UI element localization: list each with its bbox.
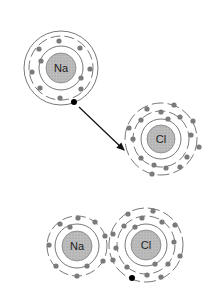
electron-transfer-arrow [79,107,124,150]
ionic-bond-diagram: Na Cl [0,0,216,298]
element-label: Cl [141,239,151,251]
chlorine-ion-bottom: Cl [109,208,183,282]
transferred-electron [71,99,77,105]
sodium-ion-bottom: Na [46,215,107,278]
element-label: Cl [156,133,166,145]
element-label: Na [70,240,85,252]
gained-electron [129,275,135,281]
element-label: Na [54,62,69,74]
sodium-atom-top: Na [24,31,98,105]
chlorine-atom-top: Cl [125,102,202,176]
